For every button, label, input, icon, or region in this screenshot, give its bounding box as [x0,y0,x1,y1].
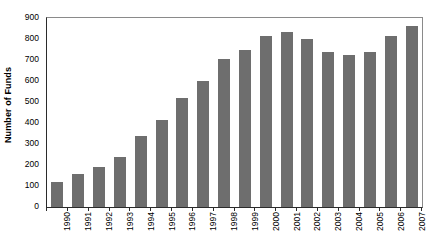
x-axis-tick-label: 2007 [416,212,428,251]
y-axis-tick-label: 400 [25,118,39,127]
x-axis-tick-mark [213,207,214,211]
x-axis-tick-mark [275,207,276,211]
y-axis-tick-label: 300 [25,139,39,148]
bar [322,52,334,207]
bar [239,50,251,208]
bar [197,81,209,207]
x-axis-tick-mark [400,207,401,211]
x-axis-tick-label: 2006 [395,212,407,251]
x-axis-tick-mark [88,207,89,211]
x-axis-tick-label: 2005 [374,212,386,251]
y-axis-tick-label: 900 [25,13,39,22]
y-axis-tick-label: 500 [25,97,39,106]
x-axis-tick-label: 1998 [228,212,240,251]
bar [218,59,230,207]
y-axis-title-label: Number of Funds [3,67,13,143]
bar [281,32,293,207]
y-axis-tick-label: 600 [25,76,39,85]
x-axis-tick-marks [46,207,423,211]
x-axis-tick-mark [67,207,68,211]
bar [364,52,376,207]
x-axis-tick-label: 1994 [145,212,157,251]
x-axis-tick-label: 2001 [291,212,303,251]
y-axis-tick-labels: 0100200300400500600700800900 [16,17,43,206]
y-axis-tick-label: 100 [25,181,39,190]
x-axis-tick-label: 1990 [61,212,73,251]
x-axis-tick-mark [234,207,235,211]
x-axis-tick-label: 1993 [124,212,136,251]
x-axis-tick-mark [46,207,47,211]
x-axis-tick-mark [192,207,193,211]
bar [135,136,147,207]
x-axis-tick-label: 1995 [166,212,178,251]
x-axis-tick-label: 1997 [207,212,219,251]
x-axis-tick-mark [338,207,339,211]
x-axis-tick-mark [129,207,130,211]
y-axis-tick-label: 700 [25,55,39,64]
x-axis-tick-mark [421,207,422,211]
x-axis-tick-mark [254,207,255,211]
x-axis-tick-label: 1996 [186,212,198,251]
x-axis-tick-label: 2000 [270,212,282,251]
bar [93,167,105,207]
x-axis-tick-mark [296,207,297,211]
x-axis-tick-mark [109,207,110,211]
bar [72,174,84,207]
y-axis-tick-label: 200 [25,160,39,169]
x-axis-tick-mark [379,207,380,211]
bar [114,157,126,207]
x-axis-tick-label: 1992 [103,212,115,251]
x-axis-tick-label: 1991 [82,212,94,251]
x-axis-tick-label: 2004 [353,212,365,251]
bar [260,36,272,207]
bar [343,55,355,207]
y-axis-title: Number of Funds [0,0,16,210]
bar [301,39,313,207]
x-axis-tick-label: 2002 [311,212,323,251]
plot-area [46,17,423,208]
bar-chart-figure: Number of Funds 010020030040050060070080… [0,0,433,251]
bar [385,36,397,207]
x-axis-tick-mark [359,207,360,211]
x-axis-tick-mark [171,207,172,211]
bars-layer [47,18,422,207]
x-axis-tick-mark [317,207,318,211]
x-axis-tick-label: 1999 [249,212,261,251]
y-axis-tick-label: 800 [25,34,39,43]
x-axis-tick-labels: 1990199119921993199419951996199719981999… [46,212,423,251]
bar [406,26,418,207]
bar [156,120,168,207]
y-axis-tick-label: 0 [34,202,39,211]
x-axis-tick-label: 2003 [332,212,344,251]
bar [51,182,63,207]
bar [176,98,188,207]
x-axis-tick-mark [150,207,151,211]
